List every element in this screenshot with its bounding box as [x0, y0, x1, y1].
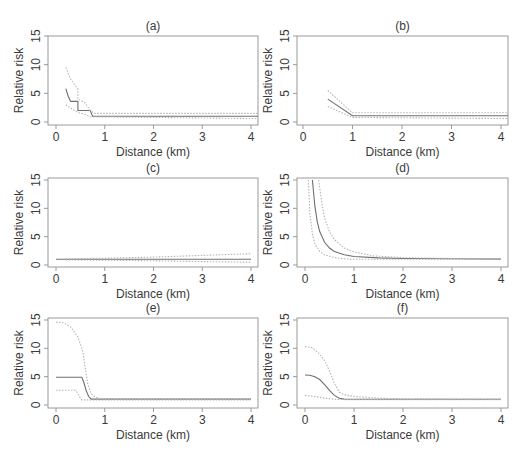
panel-b: (b)01234051015Distance (km)Relative risk: [261, 19, 511, 159]
y-tick-label: 15: [278, 29, 292, 43]
panel-title: (e): [146, 301, 161, 315]
plot-frame: [48, 318, 258, 408]
y-tick-label: 10: [278, 58, 292, 72]
x-tick-label: 4: [498, 272, 505, 286]
x-tick-label: 1: [101, 272, 108, 286]
y-axis-label: Relative risk: [261, 329, 275, 395]
x-axis-label: Distance (km): [116, 145, 190, 159]
panel-title: (f): [397, 301, 408, 315]
estimate-line: [312, 180, 501, 259]
x-tick-label: 0: [302, 413, 309, 427]
x-tick-label: 3: [449, 413, 456, 427]
x-tick-label: 4: [498, 130, 505, 144]
x-tick-label: 3: [448, 130, 455, 144]
y-tick-label: 10: [29, 341, 43, 355]
x-tick-label: 1: [349, 130, 356, 144]
y-axis-label: Relative risk: [261, 189, 275, 255]
x-tick-label: 4: [248, 130, 255, 144]
y-tick-label: 15: [278, 313, 292, 327]
x-tick-label: 3: [449, 272, 456, 286]
series-group: [308, 180, 501, 259]
x-tick-label: 4: [248, 272, 255, 286]
y-axis-label: Relative risk: [12, 329, 26, 395]
y-tick-label: 10: [278, 341, 292, 355]
y-tick-label: 0: [278, 261, 292, 268]
series-group: [56, 254, 251, 263]
y-tick-label: 10: [29, 201, 43, 215]
y-tick-label: 0: [29, 401, 43, 408]
panel-e: (e)01234051015Distance (km)Relative risk: [12, 301, 258, 442]
x-tick-label: 0: [53, 130, 60, 144]
x-tick-label: 2: [399, 130, 406, 144]
ci-line: [56, 390, 251, 400]
estimate-line: [305, 375, 501, 399]
ci-line: [308, 180, 501, 259]
panel-c: (c)01234051015Distance (km)Relative risk: [12, 161, 258, 301]
ci-line: [319, 180, 501, 259]
panel-title: (b): [395, 19, 410, 33]
x-tick-label: 1: [101, 130, 108, 144]
x-tick-label: 1: [351, 413, 358, 427]
y-tick-label: 5: [278, 90, 292, 97]
x-tick-label: 0: [300, 130, 307, 144]
x-axis-label: Distance (km): [116, 287, 190, 301]
x-tick-label: 3: [199, 272, 206, 286]
x-tick-label: 0: [53, 413, 60, 427]
x-axis-label: Distance (km): [365, 428, 439, 442]
y-tick-label: 5: [29, 233, 43, 240]
series-group: [66, 68, 261, 119]
x-tick-label: 2: [400, 272, 407, 286]
y-tick-label: 10: [29, 58, 43, 72]
y-axis-label: Relative risk: [261, 47, 275, 113]
x-axis-label: Distance (km): [116, 428, 190, 442]
x-tick-label: 1: [101, 413, 108, 427]
y-tick-label: 5: [29, 90, 43, 97]
ci-line: [328, 91, 511, 113]
panel-title: (c): [146, 161, 160, 175]
figure-canvas: (a)01234051015Distance (km)Relative risk…: [0, 0, 527, 451]
y-tick-label: 5: [278, 233, 292, 240]
ci-line: [66, 68, 261, 114]
x-tick-label: 2: [150, 272, 157, 286]
panel-title: (a): [146, 19, 161, 33]
series-group: [328, 91, 511, 119]
x-tick-label: 4: [248, 413, 255, 427]
x-tick-label: 3: [199, 413, 206, 427]
y-tick-label: 0: [278, 401, 292, 408]
y-tick-label: 0: [29, 261, 43, 268]
x-axis-label: Distance (km): [365, 287, 439, 301]
ci-line: [66, 260, 251, 262]
x-tick-label: 2: [150, 413, 157, 427]
y-tick-label: 0: [29, 118, 43, 125]
panel-title: (d): [395, 161, 410, 175]
plot-frame: [297, 318, 508, 408]
panel-a: (a)01234051015Distance (km)Relative risk: [12, 19, 261, 159]
plot-frame: [48, 36, 258, 125]
x-tick-label: 1: [351, 272, 358, 286]
x-tick-label: 0: [53, 272, 60, 286]
x-tick-label: 4: [498, 413, 505, 427]
y-tick-label: 15: [278, 173, 292, 187]
y-tick-label: 0: [278, 118, 292, 125]
estimate-line: [66, 89, 261, 117]
y-axis-label: Relative risk: [12, 189, 26, 255]
x-tick-label: 2: [150, 130, 157, 144]
y-axis-label: Relative risk: [12, 47, 26, 113]
x-tick-label: 3: [199, 130, 206, 144]
plot-frame: [297, 178, 508, 267]
panel-d: (d)01234051015Distance (km)Relative risk: [261, 161, 508, 301]
series-group: [305, 347, 501, 400]
y-tick-label: 15: [29, 173, 43, 187]
panel-f: (f)01234051015Distance (km)Relative risk: [261, 301, 508, 442]
x-tick-label: 0: [302, 272, 309, 286]
ci-line: [305, 347, 501, 400]
series-group: [56, 322, 251, 400]
y-tick-label: 15: [29, 29, 43, 43]
y-tick-label: 15: [29, 313, 43, 327]
ci-line: [66, 254, 251, 259]
x-tick-label: 2: [400, 413, 407, 427]
y-tick-label: 5: [278, 373, 292, 380]
estimate-line: [56, 377, 251, 399]
y-tick-label: 10: [278, 201, 292, 215]
plot-frame: [48, 178, 258, 267]
